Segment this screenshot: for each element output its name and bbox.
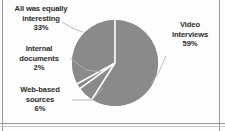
slice-label-value: 33%	[4, 23, 78, 33]
slice-label-value: 2%	[6, 63, 72, 73]
slice-label-line1: All was equally	[4, 4, 78, 14]
slice-label-value: 59%	[160, 39, 220, 49]
slice-label-video-interviews: Video interviews 59%	[160, 20, 220, 49]
slice-label-internal-documents: Internal documents 2%	[6, 44, 72, 73]
slice-label-value: 6%	[4, 104, 76, 114]
slice-label-line2: interesting	[4, 14, 78, 24]
pie-slices-group	[72, 20, 158, 107]
slice-label-line2: documents	[6, 54, 72, 64]
slice-label-line2: sources	[4, 95, 76, 105]
slice-label-line2: interviews	[160, 30, 220, 40]
slice-label-web-based-sources: Web-based sources 6%	[4, 85, 76, 114]
pie-chart-figure: All was equally interesting 33% Internal…	[0, 0, 225, 131]
slice-label-line1: Video	[160, 20, 220, 30]
slice-label-line1: Web-based	[4, 85, 76, 95]
slice-label-all-equally-interesting: All was equally interesting 33%	[4, 4, 78, 33]
slice-label-line1: Internal	[6, 44, 72, 54]
